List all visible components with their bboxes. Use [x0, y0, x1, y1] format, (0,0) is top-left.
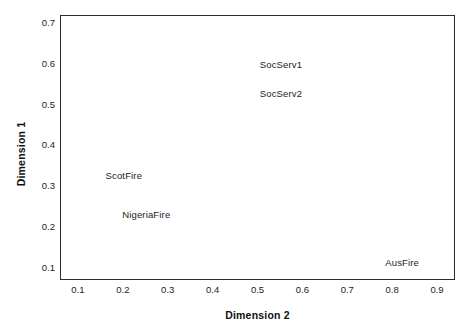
y-tick-label: 0.6 [42, 59, 55, 69]
scatter-plot-figure: Dimension 1 0.10.20.30.40.50.60.7 SocSer… [0, 0, 474, 332]
data-point-label: ScotFire [106, 171, 143, 181]
x-tick-label: 0.7 [341, 285, 354, 295]
x-tick-label: 0.5 [251, 285, 264, 295]
data-point-label: SocServ1 [260, 60, 302, 70]
x-axis-title: Dimension 2 [60, 309, 455, 321]
x-tick-label: 0.9 [430, 285, 443, 295]
plot-area: SocServ1SocServ2ScotFireNigeriaFireAusFi… [60, 15, 455, 280]
x-tick-label: 0.2 [116, 285, 129, 295]
x-tick-label: 0.4 [206, 285, 219, 295]
x-tick-label: 0.3 [161, 285, 174, 295]
x-tick-label: 0.8 [386, 285, 399, 295]
y-tick-label: 0.2 [42, 222, 55, 232]
data-point-label: NigeriaFire [122, 210, 170, 220]
y-tick-label: 0.5 [42, 100, 55, 110]
y-tick-label: 0.4 [42, 141, 55, 151]
y-tick-label: 0.1 [42, 263, 55, 273]
y-axis-tick-labels: 0.10.20.30.40.50.60.7 [0, 0, 55, 332]
data-point-label: AusFire [385, 259, 419, 269]
y-tick-label: 0.3 [42, 181, 55, 191]
y-tick-label: 0.7 [42, 18, 55, 28]
x-tick-label: 0.1 [71, 285, 84, 295]
x-tick-label: 0.6 [296, 285, 309, 295]
data-point-label: SocServ2 [260, 90, 302, 100]
